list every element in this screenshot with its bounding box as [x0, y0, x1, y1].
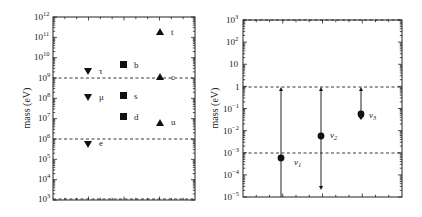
- ytick-label: 107: [38, 111, 51, 123]
- square-marker-d: [120, 113, 127, 120]
- label-d: d: [134, 112, 139, 122]
- ytick-label: 104: [38, 172, 51, 184]
- right-y-tick-labels: 103 102 10 1 10−1 10−2 10−3 10−4 10−5: [223, 13, 240, 202]
- triangle-up-marker-u: [156, 119, 164, 126]
- label-c: c: [171, 72, 175, 82]
- nu2-down-arrow-icon: [319, 186, 323, 190]
- nu2-marker: [318, 133, 325, 140]
- right-panel: 103 102 10 1 10−1 10−2 10−3 10−4 10−5 ma…: [209, 13, 402, 202]
- triangle-down-marker-tau: [84, 68, 92, 75]
- ytick-label: 105: [38, 152, 50, 164]
- nu1-up-arrow-icon: [279, 87, 283, 91]
- ytick-label: 102: [226, 35, 238, 47]
- label-u: u: [171, 117, 176, 127]
- neutrino-ranges: ν1 ν2 ν3: [278, 87, 377, 197]
- triangle-down-marker-mu: [84, 94, 92, 101]
- ytick-label: 10−3: [223, 146, 239, 158]
- ytick-label: 10−4: [223, 168, 240, 180]
- label-e: e: [99, 138, 103, 148]
- nu3-up-arrow-icon: [359, 87, 363, 91]
- ytick-label: 1: [235, 82, 240, 92]
- ytick-label: 108: [38, 91, 50, 103]
- left-y-axis-label: mass (eV): [21, 88, 33, 129]
- label-mu: μ: [99, 92, 104, 102]
- label-t: t: [171, 27, 174, 37]
- mass-spectrum-figure: 1012 1011 1010 109 108 107 106 105 104 1…: [0, 0, 422, 217]
- left-axis-ticks: [53, 17, 195, 200]
- label-s: s: [134, 91, 138, 101]
- ytick-label: 1010: [34, 50, 50, 62]
- nu2-up-arrow-icon: [319, 87, 323, 91]
- right-y-axis-label: mass (eV): [209, 88, 221, 129]
- triangle-up-marker-t: [156, 28, 164, 35]
- label-nu2: ν2: [330, 130, 338, 141]
- label-tau: τ: [99, 66, 103, 76]
- ytick-label: 103: [38, 192, 50, 204]
- triangle-up-marker-c: [156, 73, 164, 80]
- ytick-label: 109: [38, 71, 50, 83]
- left-plot-frame: [53, 17, 195, 200]
- ytick-label: 10−5: [223, 190, 239, 202]
- ytick-label: 10−1: [223, 102, 239, 114]
- square-marker-s: [120, 92, 127, 99]
- ytick-label: 10: [229, 59, 239, 69]
- nu1-marker: [278, 155, 285, 162]
- left-panel: 1012 1011 1010 109 108 107 106 105 104 1…: [21, 10, 195, 204]
- ytick-label: 10−2: [223, 124, 239, 136]
- label-nu1: ν1: [294, 157, 301, 168]
- triangle-down-marker-e: [84, 141, 92, 148]
- ytick-label: 1011: [34, 30, 49, 42]
- left-y-tick-labels: 1012 1011 1010 109 108 107 106 105 104 1…: [34, 10, 51, 204]
- right-plot-frame: [243, 20, 402, 197]
- label-b: b: [134, 60, 139, 70]
- ytick-label: 1012: [34, 10, 50, 22]
- nu3-down-tip: [358, 116, 364, 120]
- ytick-label: 106: [38, 132, 51, 144]
- label-nu3: ν3: [369, 110, 377, 121]
- left-markers: τ μ e b s d t c u: [84, 27, 176, 148]
- ytick-label: 103: [226, 13, 238, 25]
- square-marker-b: [120, 61, 127, 68]
- right-axis-ticks: [243, 20, 402, 197]
